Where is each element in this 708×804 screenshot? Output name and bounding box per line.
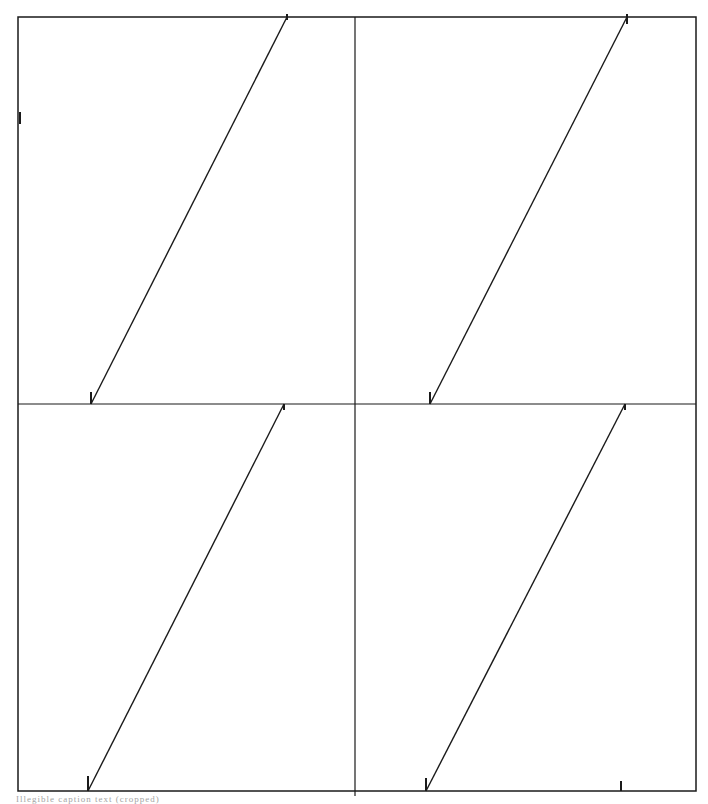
diagonal-stroke — [88, 404, 284, 791]
panels — [88, 14, 627, 791]
panel-top-right — [430, 14, 627, 404]
panel-top-left — [91, 14, 287, 404]
panel-bottom-left — [88, 404, 284, 791]
figure-caption: Illegible caption text (cropped) — [16, 794, 160, 804]
diagonal-stroke — [426, 404, 625, 791]
diagonal-stroke — [430, 17, 627, 404]
diagonal-stroke — [91, 17, 287, 404]
extra-marks — [20, 112, 621, 791]
panel-bottom-right — [426, 404, 625, 791]
